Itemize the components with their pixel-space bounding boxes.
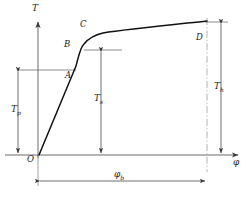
origin-label: O [27,155,34,164]
reference-lines [18,22,228,70]
point-label-c: C [80,20,87,29]
point-label-a: A [65,71,71,80]
torque-angle-diagram [0,0,250,202]
axis-group [5,22,238,158]
dimension-label-ts: Ts [94,94,103,105]
dimension-label-tp-sub: p [17,109,21,116]
point-label-b: B [64,40,70,49]
dimension-label-tp: Tp [11,105,21,116]
x-axis-label: φ [233,158,239,167]
point-label-d: D [196,33,203,42]
dimension-label-ts-sub: s [100,98,103,105]
y-axis-label: T [32,4,38,13]
dimension-label-th-sub: h [220,86,224,93]
dimension-label-th: Th [214,82,224,93]
dimension-label-phib: φb [114,170,124,181]
figure-canvas: T φ O A B C D Tp Ts Th φb [0,0,250,202]
dimension-label-phib-sub: b [120,174,124,181]
